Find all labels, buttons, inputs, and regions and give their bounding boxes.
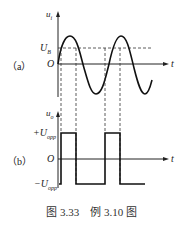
panel-a-y-label: ui (46, 9, 52, 21)
panel-a-x-label: t (171, 58, 174, 69)
panel-b-y-arrow-icon (56, 111, 60, 117)
threshold-label: UB (40, 42, 51, 55)
panel-b-label: （b） (7, 153, 32, 168)
panel-b-x-label: t (171, 153, 174, 164)
high-level-label: +Uopp (33, 127, 56, 140)
diagram-canvas (0, 0, 183, 226)
figure-caption: 图 3.33 例 3.10 图 (0, 203, 183, 219)
panel-b-origin: O (47, 153, 54, 164)
panel-a-y-arrow-icon (56, 11, 60, 17)
panel-a-origin: O (47, 58, 54, 69)
low-level-label: −Uopp (34, 178, 57, 191)
panel-a-x-arrow-icon (163, 62, 169, 66)
panel-a-label: （a） (7, 58, 31, 73)
panel-b-x-arrow-icon (163, 157, 169, 161)
panel-b-y-label: uo (46, 108, 54, 120)
